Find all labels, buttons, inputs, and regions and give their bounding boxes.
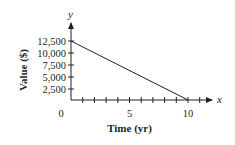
value-line (71, 41, 188, 100)
y-tick-label: 5,000 (42, 72, 66, 83)
x-axis-variable: x (216, 93, 222, 105)
x-tick-label: 10 (183, 108, 194, 119)
y-tick-label: 2,500 (42, 84, 66, 95)
y-tick-label: 12,500 (37, 36, 66, 47)
y-tick-label: 10,000 (37, 48, 66, 59)
y-axis-variable: y (67, 8, 73, 20)
x-tick-label: 5 (127, 108, 132, 119)
x-tick-label: 0 (58, 108, 63, 119)
y-tick-label: 7,500 (42, 60, 66, 71)
depreciation-chart: y x 12,500 10,000 7,500 5,000 2,500 0 5 … (0, 0, 235, 145)
y-axis-title: Value ($) (17, 49, 30, 91)
x-axis-title: Time (yr) (107, 122, 152, 135)
x-tick-labels: 0 5 10 (58, 108, 193, 119)
y-tick-labels: 12,500 10,000 7,500 5,000 2,500 (37, 36, 66, 95)
